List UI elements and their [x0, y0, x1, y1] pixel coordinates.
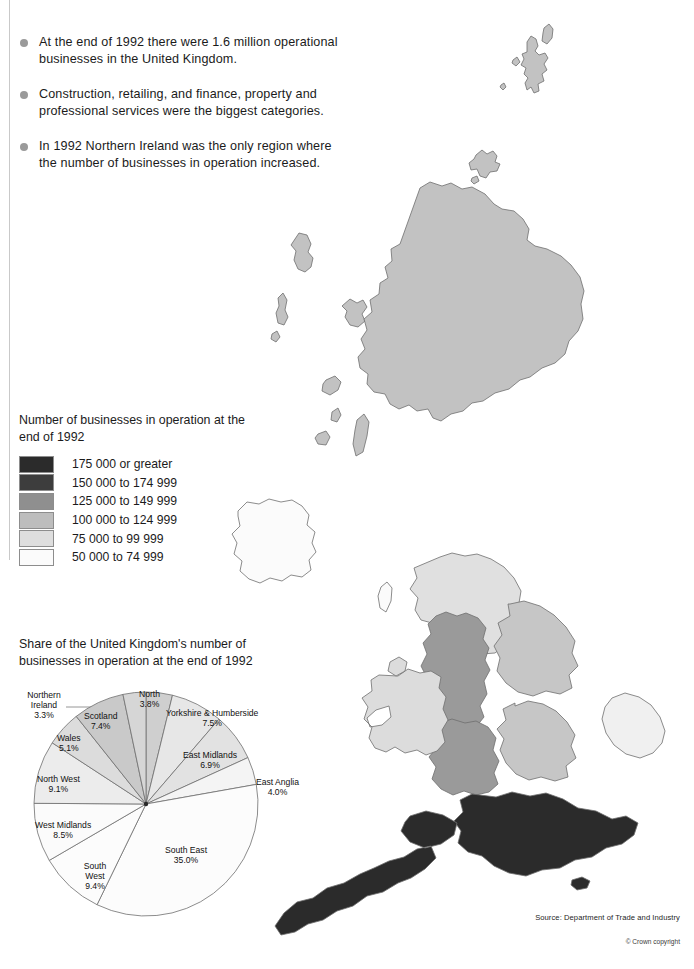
left-edge-rule: [9, 0, 10, 560]
map-region-shetland-north: [542, 24, 553, 44]
pie-label-value: 8.5%: [35, 830, 91, 840]
map-region-south-west: [275, 811, 457, 935]
pie-label-value: 4.0%: [256, 787, 299, 797]
legend-item-2: 125 000 to 149 999: [19, 492, 269, 511]
pie-label-text: North: [139, 689, 160, 699]
legend-swatch: [19, 456, 54, 473]
pie-label-north: North 3.8%: [139, 689, 160, 709]
pie-label-value: 35.0%: [165, 855, 207, 865]
pie-label-value: 9.1%: [37, 784, 80, 794]
map-region-orkney-south: [471, 176, 479, 184]
pie-label-text: East Anglia: [256, 777, 299, 787]
pie-label-text: Yorkshire & Humberside: [166, 708, 258, 718]
pie-label-scotland: Scotland 7.4%: [84, 711, 117, 731]
pie-label-east-midlands: East Midlands 6.9%: [183, 750, 237, 770]
pie-label-north-west: North West 9.1%: [37, 774, 80, 794]
pie-label-wales: Wales 5.1%: [57, 733, 81, 753]
legend-item-4: 75 000 to 99 999: [19, 529, 269, 548]
pie-label-south-west: South West 9.4%: [78, 861, 112, 891]
map-region-jura: [331, 408, 341, 422]
map-region-uist: [276, 293, 288, 325]
map-region-skye: [342, 299, 367, 327]
map-region-east-midlands: [497, 701, 576, 781]
pie-label-text: Northern Ireland: [22, 690, 66, 710]
map-region-isle-of-man: [378, 582, 392, 612]
map-region-south-east: [454, 792, 638, 876]
bullet-dot-icon: [20, 143, 28, 151]
pie-center-dot: [144, 802, 148, 806]
legend-label: 50 000 to 74 999: [72, 550, 164, 564]
legend-label: 175 000 or greater: [72, 457, 172, 471]
map-region-islay: [315, 431, 330, 445]
pie-label-text: East Midlands: [183, 750, 237, 760]
pie-label-south-east: South East 35.0%: [165, 845, 207, 865]
pie-label-text: West Midlands: [35, 820, 91, 830]
legend-swatch: [19, 512, 54, 529]
legend-title: Number of businesses in operation at the…: [19, 412, 269, 445]
pie-chart-block: Share of the United Kingdom's number of …: [19, 636, 277, 921]
legend-label: 75 000 to 99 999: [72, 532, 164, 546]
pie-label-value: 3.8%: [139, 699, 160, 709]
pie-label-yorkshire-humberside: Yorkshire & Humberside 7.5%: [166, 708, 258, 728]
legend-swatch: [19, 474, 54, 491]
pie-label-value: 9.4%: [78, 881, 112, 891]
source-note: Source: Department of Trade and Industry: [535, 913, 680, 922]
map-region-shetland-isle: [512, 57, 520, 66]
legend-item-5: 50 000 to 74 999: [19, 548, 269, 567]
map-region-isle-of-wight: [571, 877, 590, 890]
pie-label-text: Scotland: [84, 711, 117, 721]
map-legend: Number of businesses in operation at the…: [19, 412, 269, 567]
pie-label-value: 7.5%: [166, 718, 258, 728]
map-region-orkney: [469, 150, 500, 178]
map-region-lewis-harris: [291, 233, 313, 272]
pie-chart-title: Share of the United Kingdom's number of …: [19, 636, 277, 669]
legend-label: 125 000 to 149 999: [72, 494, 177, 508]
map-region-fair-isle: [500, 83, 506, 90]
pie-label-east-anglia: East Anglia 4.0%: [256, 777, 299, 797]
map-region-shetland: [521, 36, 548, 93]
map-region-scotland-kintyre: [353, 414, 369, 456]
pie-label-text: Wales: [57, 733, 81, 743]
map-region-mull: [322, 376, 341, 395]
bullet-dot-icon: [20, 91, 28, 99]
uk-choropleth-map: [214, 16, 694, 936]
map-region-barra: [271, 331, 280, 342]
pie-label-northern-ireland: Northern Ireland 3.3%: [22, 690, 66, 720]
copyright-note: © Crown copyright: [626, 938, 680, 945]
pie-label-value: 3.3%: [22, 710, 66, 720]
pie-label-text: South West: [78, 861, 112, 881]
legend-swatch: [19, 549, 54, 566]
pie-label-value: 6.9%: [183, 760, 237, 770]
map-svg: [214, 16, 694, 936]
legend-item-0: 175 000 or greater: [19, 455, 269, 474]
pie-chart-area: North 3.8% Yorkshire & Humberside 7.5% E…: [15, 673, 277, 921]
map-region-wales: [362, 669, 448, 755]
legend-swatch: [19, 530, 54, 547]
bullet-dot-icon: [20, 39, 28, 47]
pie-label-west-midlands: West Midlands 8.5%: [35, 820, 91, 840]
legend-swatch: [19, 493, 54, 510]
pie-label-text: North West: [37, 774, 80, 784]
pie-label-value: 5.1%: [57, 743, 81, 753]
legend-item-3: 100 000 to 124 999: [19, 511, 269, 530]
legend-label: 100 000 to 124 999: [72, 513, 177, 527]
legend-item-1: 150 000 to 174 999: [19, 474, 269, 493]
infographic-page: At the end of 1992 there were 1.6 millio…: [0, 0, 694, 969]
pie-label-value: 7.4%: [84, 721, 117, 731]
pie-label-text: South East: [165, 845, 207, 855]
map-region-east-anglia: [602, 693, 665, 758]
map-region-scotland: [358, 182, 584, 421]
legend-label: 150 000 to 174 999: [72, 476, 177, 490]
